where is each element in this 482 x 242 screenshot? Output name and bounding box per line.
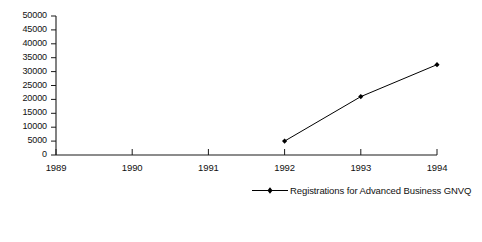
data-point-marker — [434, 62, 439, 67]
data-point-marker — [282, 139, 287, 144]
y-tick-label: 10000 — [0, 122, 47, 131]
y-tick-label: 5000 — [0, 136, 47, 145]
x-tick-label: 1992 — [255, 163, 315, 173]
x-tick-label: 1993 — [331, 163, 391, 173]
y-tick-label: 20000 — [0, 94, 47, 103]
series-markers-registrations — [282, 62, 440, 144]
y-tick-label: 45000 — [0, 25, 47, 34]
x-axis-ticks — [56, 149, 437, 155]
y-tick-label: 0 — [0, 150, 47, 159]
legend-label-registrations: Registrations for Advanced Business GNVQ — [288, 185, 471, 196]
data-point-marker — [358, 94, 363, 99]
y-tick-label: 25000 — [0, 81, 47, 90]
x-tick-label: 1994 — [407, 163, 467, 173]
series-line-registrations — [285, 65, 437, 141]
y-axis-ticks — [51, 16, 56, 155]
y-tick-label: 30000 — [0, 67, 47, 76]
y-tick-label: 50000 — [0, 11, 47, 20]
x-tick-label: 1989 — [26, 163, 86, 173]
chart-legend: Registrations for Advanced Business GNVQ — [252, 183, 471, 197]
y-tick-label: 15000 — [0, 108, 47, 117]
legend-marker-icon — [252, 185, 288, 196]
line-chart: 0500010000150002000025000300003500040000… — [0, 0, 482, 242]
x-tick-label: 1991 — [178, 163, 238, 173]
x-tick-label: 1990 — [102, 163, 162, 173]
y-tick-label: 40000 — [0, 39, 47, 48]
y-tick-label: 35000 — [0, 53, 47, 62]
chart-canvas — [0, 0, 482, 242]
